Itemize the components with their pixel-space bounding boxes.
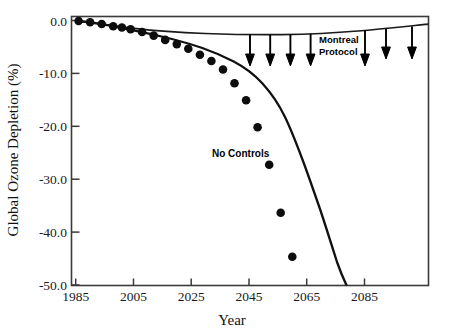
data-point — [138, 28, 147, 37]
x-tick-label: 2065 — [293, 289, 320, 304]
no-controls-label: No Controls — [212, 148, 270, 159]
data-point — [288, 252, 297, 261]
data-point — [97, 20, 106, 29]
data-point — [230, 79, 239, 88]
data-point — [242, 96, 251, 105]
y-tick-label: 0.0 — [50, 14, 67, 29]
data-point — [265, 160, 274, 169]
y-tick-label: -40.0 — [39, 225, 67, 240]
data-point — [74, 17, 83, 26]
data-point — [161, 36, 170, 45]
x-tick-label: 1985 — [62, 289, 89, 304]
x-tick-label: 2025 — [178, 289, 205, 304]
data-point — [118, 23, 127, 32]
data-point — [109, 22, 118, 31]
data-point — [253, 123, 262, 132]
data-point — [276, 209, 285, 218]
data-point — [196, 50, 205, 59]
montreal-protocol-label-line1: Montreal — [319, 34, 359, 45]
y-axis-title: Global Ozone Depletion (%) — [5, 64, 22, 237]
data-point — [86, 18, 95, 27]
data-point — [219, 65, 228, 74]
x-tick-label: 2045 — [236, 289, 263, 304]
data-point — [173, 40, 182, 49]
data-point — [126, 25, 135, 34]
data-point — [207, 57, 216, 66]
data-point — [149, 31, 158, 40]
data-point — [184, 45, 193, 54]
ozone-depletion-chart: 0.0 -10.0 -20.0 -30.0 -40.0 -50.0 1985 2… — [0, 0, 449, 335]
x-tick-label: 2085 — [351, 289, 378, 304]
chart-figure: 0.0 -10.0 -20.0 -30.0 -40.0 -50.0 1985 2… — [0, 0, 449, 335]
montreal-protocol-label-line2: Protocol — [319, 46, 358, 57]
x-axis-title: Year — [218, 312, 246, 328]
y-tick-label: -30.0 — [39, 172, 67, 187]
y-tick-label: -10.0 — [39, 66, 67, 81]
y-tick-label: -20.0 — [39, 119, 67, 134]
montreal-protocol-annotation: Montreal Protocol — [319, 34, 359, 57]
x-tick-label: 2005 — [120, 289, 147, 304]
